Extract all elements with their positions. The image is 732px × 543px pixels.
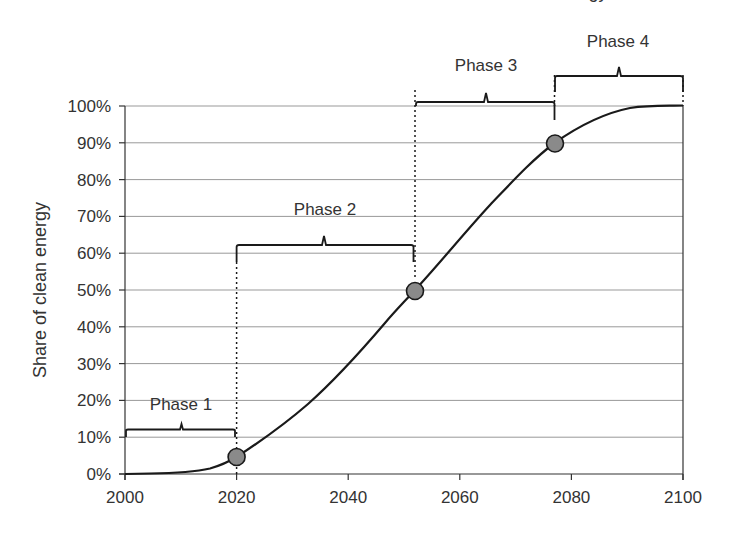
y-tick-label: 30% <box>77 355 111 374</box>
phase4-bracket <box>555 67 683 92</box>
phase2-bracket <box>237 236 414 262</box>
y-tick-label: 10% <box>77 428 111 447</box>
x-tick-label: 2020 <box>218 488 256 507</box>
milestone-markers <box>228 135 563 466</box>
marker-2020 <box>228 449 245 466</box>
chart-title-fragment: gy <box>588 0 607 2</box>
gridlines <box>125 106 683 437</box>
y-tick-labels: 0% 10% 20% 30% 40% 50% 60% 70% 80% 90% 1… <box>68 97 111 484</box>
phase-boundaries <box>237 75 683 474</box>
phase1-bracket <box>126 424 235 437</box>
s-curve-chart: gy 0% <box>0 0 732 543</box>
y-tick-label: 20% <box>77 391 111 410</box>
phase4-label: Phase 4 <box>587 32 649 51</box>
x-tick-label: 2060 <box>441 488 479 507</box>
x-tick-labels: 2000 2020 2040 2060 2080 2100 <box>106 488 702 507</box>
marker-2077 <box>547 135 564 152</box>
y-tick-label: 70% <box>77 207 111 226</box>
axes <box>119 106 683 480</box>
phase1-label: Phase 1 <box>150 395 212 414</box>
y-tick-label: 90% <box>77 134 111 153</box>
x-tick-label: 2040 <box>329 488 367 507</box>
phase-labels: Phase 1 Phase 2 Phase 3 Phase 4 <box>150 32 649 414</box>
marker-2052 <box>407 283 424 300</box>
phase3-label: Phase 3 <box>455 56 517 75</box>
y-tick-label: 0% <box>86 465 111 484</box>
x-tick-label: 2080 <box>552 488 590 507</box>
y-tick-label: 100% <box>68 97 111 116</box>
y-tick-label: 40% <box>77 318 111 337</box>
y-tick-label: 80% <box>77 171 111 190</box>
x-tick-label: 2100 <box>664 488 702 507</box>
y-axis-title: Share of clean energy <box>30 202 50 378</box>
phase2-label: Phase 2 <box>294 200 356 219</box>
y-tick-label: 60% <box>77 244 111 263</box>
y-tick-label: 50% <box>77 281 111 300</box>
phase-brackets <box>126 67 683 437</box>
x-tick-label: 2000 <box>106 488 144 507</box>
